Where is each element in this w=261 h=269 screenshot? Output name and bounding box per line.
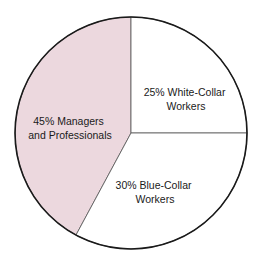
- pie-chart: 45% Managers and Professionals 25% White…: [0, 0, 261, 269]
- slice-white-collar: [131, 17, 247, 133]
